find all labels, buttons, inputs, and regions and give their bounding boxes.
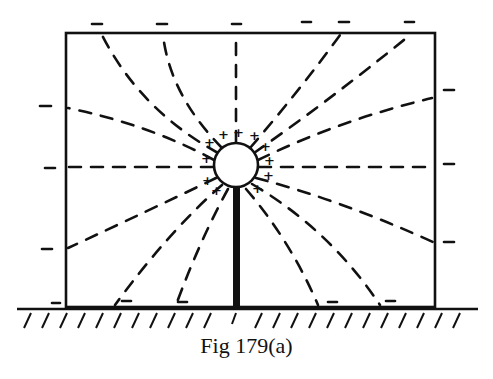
svg-text:+: + bbox=[249, 128, 260, 143]
svg-text:+: + bbox=[252, 181, 263, 196]
svg-text:+: + bbox=[211, 183, 222, 198]
charged-sphere-diagram: + + + + + + + + + + + bbox=[0, 0, 493, 379]
ground-hatching bbox=[24, 313, 460, 328]
svg-text:+: + bbox=[264, 153, 275, 168]
svg-text:+: + bbox=[263, 168, 274, 183]
figure-caption: Fig 179(a) bbox=[0, 333, 493, 359]
svg-text:+: + bbox=[233, 125, 244, 140]
svg-text:+: + bbox=[218, 127, 229, 142]
svg-text:+: + bbox=[201, 151, 212, 166]
svg-text:+: + bbox=[204, 135, 215, 150]
svg-text:+: + bbox=[260, 139, 271, 154]
support-rod bbox=[233, 186, 240, 309]
